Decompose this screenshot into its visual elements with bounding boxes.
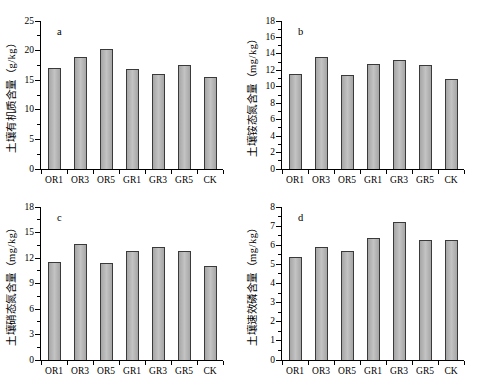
bar-or5 <box>100 263 113 360</box>
y-minor-tick <box>278 29 281 30</box>
bar-gr1 <box>126 69 139 169</box>
x-tick <box>119 170 120 174</box>
category-label: OR5 <box>334 366 360 376</box>
category-label: CK <box>197 366 223 376</box>
y-major-tick <box>35 21 40 22</box>
y-major-tick <box>276 207 281 208</box>
y-major-tick <box>35 258 40 259</box>
y-major-tick <box>276 283 281 284</box>
chart-panel-d: 012345678OR1OR3OR5GR1GR3GR5CKd土壤速效磷含量（mg… <box>241 192 482 383</box>
bar-gr3 <box>393 222 406 360</box>
y-major-tick <box>276 37 281 38</box>
x-tick <box>67 361 68 365</box>
x-tick <box>282 170 283 174</box>
y-minor-tick <box>278 95 281 96</box>
y-tick-label: 0 <box>8 165 34 174</box>
bar-gr1 <box>367 64 380 169</box>
y-major-tick <box>35 283 40 284</box>
y-major-tick <box>276 103 281 104</box>
category-label: GR3 <box>386 366 412 376</box>
y-minor-tick <box>278 45 281 46</box>
y-minor-tick <box>37 124 40 125</box>
x-tick <box>41 170 42 174</box>
y-major-tick <box>35 232 40 233</box>
x-tick <box>197 170 198 174</box>
y-axis-label: 土壤有机质含量（g/kg） <box>6 37 17 152</box>
x-tick <box>41 361 42 365</box>
bar-gr5 <box>178 65 191 169</box>
x-tick <box>223 361 224 365</box>
bar-ck <box>204 77 217 169</box>
x-tick <box>93 361 94 365</box>
bar-or5 <box>341 75 354 169</box>
x-tick <box>386 361 387 365</box>
plot-area: 012345678OR1OR3OR5GR1GR3GR5CKd <box>281 207 464 361</box>
y-minor-tick <box>37 245 40 246</box>
category-label: GR5 <box>412 366 438 376</box>
bar-gr1 <box>126 251 139 360</box>
category-label: OR3 <box>308 175 334 185</box>
bar-or3 <box>315 247 328 360</box>
y-minor-tick <box>278 111 281 112</box>
y-minor-tick <box>37 270 40 271</box>
x-tick <box>360 361 361 365</box>
y-major-tick <box>35 207 40 208</box>
x-tick <box>145 361 146 365</box>
bar-or1 <box>48 262 61 360</box>
y-major-tick <box>35 109 40 110</box>
x-tick <box>360 170 361 174</box>
y-minor-tick <box>278 331 281 332</box>
y-major-tick <box>276 360 281 361</box>
y-major-tick <box>35 309 40 310</box>
bar-gr5 <box>419 65 432 169</box>
y-major-tick <box>276 21 281 22</box>
y-tick-label: 18 <box>249 17 275 26</box>
panel-letter: a <box>57 27 62 37</box>
x-tick <box>171 170 172 174</box>
x-tick <box>438 170 439 174</box>
category-label: OR1 <box>282 366 308 376</box>
y-major-tick <box>35 50 40 51</box>
y-tick-label: 8 <box>249 203 275 212</box>
category-label: OR1 <box>41 175 67 185</box>
bar-or5 <box>341 251 354 360</box>
y-major-tick <box>35 334 40 335</box>
category-label: GR5 <box>171 175 197 185</box>
x-tick <box>308 361 309 365</box>
y-major-tick <box>35 360 40 361</box>
category-label: OR1 <box>41 366 67 376</box>
y-minor-tick <box>278 144 281 145</box>
category-label: OR5 <box>93 366 119 376</box>
y-minor-tick <box>278 293 281 294</box>
bar-or1 <box>48 68 61 169</box>
category-label: OR3 <box>308 366 334 376</box>
category-label: GR5 <box>412 175 438 185</box>
category-label: OR3 <box>67 366 93 376</box>
bar-or1 <box>289 74 302 169</box>
y-major-tick <box>35 169 40 170</box>
y-tick-label: 0 <box>249 165 275 174</box>
y-major-tick <box>276 86 281 87</box>
bar-or3 <box>74 244 87 360</box>
x-tick <box>334 170 335 174</box>
chart-panel-a: 0510152025OR1OR3OR5GR1GR3GR5CKa土壤有机质含量（g… <box>0 0 241 192</box>
y-minor-tick <box>37 219 40 220</box>
x-tick <box>119 361 120 365</box>
y-minor-tick <box>278 312 281 313</box>
plot-area: 024681012141618OR1OR3OR5GR1GR3GR5CKb <box>281 21 464 170</box>
y-major-tick <box>276 70 281 71</box>
x-tick <box>412 170 413 174</box>
y-minor-tick <box>278 216 281 217</box>
y-minor-tick <box>278 235 281 236</box>
bar-gr5 <box>178 251 191 360</box>
y-major-tick <box>276 169 281 170</box>
category-label: OR5 <box>334 175 360 185</box>
x-tick <box>67 170 68 174</box>
category-label: GR1 <box>119 366 145 376</box>
x-tick <box>223 170 224 174</box>
y-minor-tick <box>37 35 40 36</box>
y-tick-label: 25 <box>8 17 34 26</box>
y-minor-tick <box>37 347 40 348</box>
bar-gr3 <box>152 74 165 169</box>
y-minor-tick <box>278 254 281 255</box>
